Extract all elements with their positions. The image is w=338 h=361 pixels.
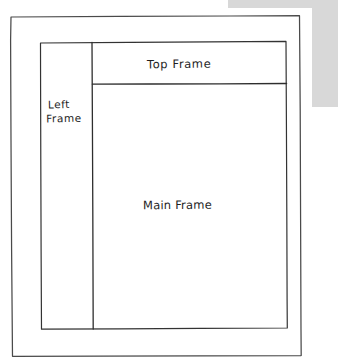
- top-frame-label: Top Frame: [147, 57, 211, 72]
- left-frame-label-line-2: Frame: [46, 111, 90, 125]
- left-frame-label: Left Frame: [48, 98, 91, 126]
- sketch-ink-layer: [0, 0, 338, 361]
- sketch-canvas: Top Frame Left Frame Main Frame: [0, 0, 338, 361]
- main-frame-label: Main Frame: [143, 198, 212, 213]
- top-frame-divider-line: [92, 84, 286, 85]
- left-frame-divider-line: [92, 43, 93, 330]
- left-frame-label-line-1: Left: [48, 98, 70, 110]
